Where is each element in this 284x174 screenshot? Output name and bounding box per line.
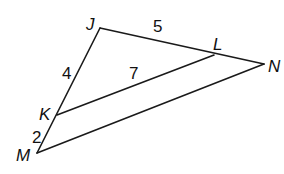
vertex-label-l: L: [213, 35, 222, 54]
measure-km: 2: [32, 128, 41, 147]
measure-jk: 4: [62, 64, 71, 83]
vertex-label-n: N: [268, 57, 281, 76]
vertex-label-m: M: [16, 146, 31, 165]
segment-jn: [100, 28, 264, 64]
triangle-diagram: J L N K M 5 4 7 2: [0, 0, 284, 174]
measure-jl: 5: [153, 17, 162, 36]
vertex-label-k: K: [39, 105, 51, 124]
vertex-label-j: J: [85, 15, 95, 34]
measure-kl: 7: [129, 64, 138, 83]
segment-jm: [37, 28, 100, 153]
